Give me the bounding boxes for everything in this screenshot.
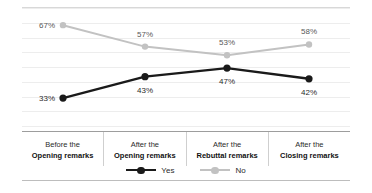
legend-label: Yes <box>161 166 174 175</box>
category-line1: After the <box>131 139 159 150</box>
data-label: 43% <box>137 85 153 94</box>
category-line2: Closing remarks <box>280 150 339 161</box>
data-point-marker <box>59 95 66 102</box>
series-lines <box>22 8 350 126</box>
chart-legend: Yes No <box>0 165 372 175</box>
data-point-marker <box>224 52 230 58</box>
plot-area: 33%43%47%42%67%57%53%58% <box>22 8 350 126</box>
data-label: 53% <box>219 38 235 47</box>
legend-marker-icon <box>126 165 156 175</box>
category-line1: After the <box>213 139 241 150</box>
legend-label: No <box>235 166 245 175</box>
category-cell: After the Closing remarks <box>269 132 350 166</box>
gridline <box>22 126 350 127</box>
data-point-marker <box>141 73 148 80</box>
data-label: 47% <box>219 77 235 86</box>
legend-item-no: No <box>200 165 245 175</box>
poll-line-chart: 33%43%47%42%67%57%53%58% Before the Open… <box>0 0 372 193</box>
legend-marker-icon <box>200 165 230 175</box>
category-cell: After the Rebuttal remarks <box>187 132 269 166</box>
data-point-marker <box>223 64 230 71</box>
legend-item-yes: Yes <box>126 165 174 175</box>
data-point-marker <box>305 75 312 82</box>
category-cell: After the Opening remarks <box>104 132 186 166</box>
category-line2: Opening remarks <box>32 150 94 161</box>
data-label: 57% <box>137 29 153 38</box>
series-line <box>63 68 309 98</box>
data-label: 33% <box>39 94 55 103</box>
data-label: 67% <box>39 21 55 30</box>
category-line1: Before the <box>45 139 80 150</box>
category-line2: Opening remarks <box>114 150 176 161</box>
category-cell: Before the Opening remarks <box>22 132 104 166</box>
data-label: 58% <box>301 27 317 36</box>
series-line <box>63 25 309 55</box>
data-label: 42% <box>301 87 317 96</box>
category-line1: After the <box>295 139 323 150</box>
category-line2: Rebuttal remarks <box>196 150 257 161</box>
chart-bottom-rule <box>22 180 350 181</box>
data-point-marker <box>60 22 66 28</box>
data-point-marker <box>306 41 312 47</box>
category-axis-table: Before the Opening remarks After the Ope… <box>22 131 350 166</box>
data-point-marker <box>142 43 148 49</box>
